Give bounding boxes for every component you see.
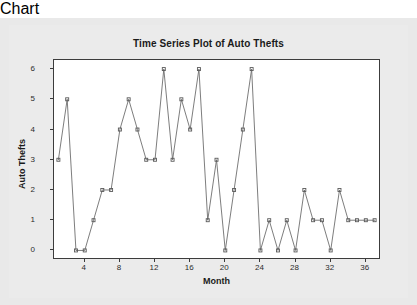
y-tick-label: 4: [15, 124, 35, 133]
x-tick-mark: [224, 259, 225, 262]
x-tick-mark: [189, 259, 190, 262]
x-tick-mark: [84, 259, 85, 262]
x-tick-mark: [119, 259, 120, 262]
y-tick-label: 6: [15, 64, 35, 73]
x-tick-mark: [295, 259, 296, 262]
y-tick-label: 2: [15, 184, 35, 193]
x-tick-label: 32: [318, 263, 342, 272]
x-tick-label: 8: [107, 263, 131, 272]
x-tick-label: 12: [142, 263, 166, 272]
series-line-auto-thefts: [58, 69, 374, 250]
x-tick-label: 4: [72, 263, 96, 272]
plot-area: [53, 59, 380, 259]
x-tick-label: 28: [283, 263, 307, 272]
x-tick-label: 36: [353, 263, 377, 272]
x-tick-mark: [259, 259, 260, 262]
x-tick-mark: [365, 259, 366, 262]
x-tick-mark: [154, 259, 155, 262]
y-tick-label: 5: [15, 94, 35, 103]
y-tick-label: 0: [15, 245, 35, 254]
chart-figure: Time Series Plot of Auto Thefts Auto The…: [0, 18, 417, 305]
y-tick-label: 1: [15, 215, 35, 224]
x-tick-label: 20: [212, 263, 236, 272]
x-tick-mark: [330, 259, 331, 262]
x-tick-label: 16: [177, 263, 201, 272]
series-plot: [54, 60, 379, 258]
y-tick-label: 3: [15, 154, 35, 163]
x-axis-label: Month: [53, 276, 380, 286]
x-tick-label: 24: [247, 263, 271, 272]
chart-title: Time Series Plot of Auto Thefts: [0, 38, 417, 49]
